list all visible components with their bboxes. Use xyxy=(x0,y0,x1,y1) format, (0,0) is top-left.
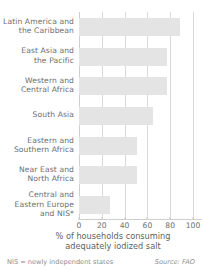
category-label-line-1: Latin America and xyxy=(0,17,74,26)
bar-row xyxy=(79,77,193,95)
tick-label-0: 0 xyxy=(77,221,82,230)
category-label: East Asia andthe Pacific xyxy=(0,46,74,64)
category-axis-line xyxy=(79,219,202,220)
category-label-line-2: Eastern Europe xyxy=(0,200,74,209)
tick-label-100: 100 xyxy=(186,221,201,230)
tick-mark-20 xyxy=(101,217,102,220)
category-label-line-1: East Asia and xyxy=(0,46,74,55)
category-label-line-3: and NIS* xyxy=(0,209,74,218)
category-label-line-1: South Asia xyxy=(0,110,74,119)
category-label: Latin America andthe Caribbean xyxy=(0,17,74,35)
bar-row xyxy=(79,107,193,125)
source-credit: Source: FAO xyxy=(155,258,195,266)
category-label-line-1: Central and xyxy=(0,190,74,199)
bar xyxy=(79,77,167,95)
category-label-line-2: Central Africa xyxy=(0,85,74,94)
bar xyxy=(79,166,137,184)
category-label: South Asia xyxy=(0,110,74,119)
category-label-line-1: Eastern and xyxy=(0,136,74,145)
bar xyxy=(79,18,180,36)
tick-label-60: 60 xyxy=(143,221,153,230)
footnote: NIS = newly independent states xyxy=(7,258,113,266)
tick-label-80: 80 xyxy=(165,221,175,230)
gridline-100 xyxy=(193,12,194,220)
category-label-line-2: Southern Africa xyxy=(0,145,74,154)
category-label-line-2: the Caribbean xyxy=(0,26,74,35)
category-label-line-2: the Pacific xyxy=(0,56,74,65)
tick-mark-40 xyxy=(124,217,125,220)
bar-row xyxy=(79,18,193,36)
category-label: Western andCentral Africa xyxy=(0,76,74,94)
category-label-line-2: North Africa xyxy=(0,174,74,183)
bar xyxy=(79,107,153,125)
iodized-salt-bar-chart: Latin America andthe CaribbeanEast Asia … xyxy=(0,0,202,271)
bar xyxy=(79,48,167,66)
tick-mark-60 xyxy=(147,217,148,220)
bar-row xyxy=(79,166,193,184)
tick-label-20: 20 xyxy=(97,221,107,230)
plot-area xyxy=(79,12,193,220)
axis-title-line-2: adequately iodized salt xyxy=(26,241,200,251)
tick-mark-0 xyxy=(79,217,80,220)
category-label: Central andEastern Europeand NIS* xyxy=(0,190,74,218)
bar-row xyxy=(79,196,193,214)
bar xyxy=(79,196,110,214)
axis-title: % of households consuming adequately iod… xyxy=(26,231,200,251)
bar xyxy=(79,137,137,155)
category-label: Eastern andSouthern Africa xyxy=(0,136,74,154)
category-label: Near East andNorth Africa xyxy=(0,165,74,183)
tick-mark-80 xyxy=(170,217,171,220)
bar-row xyxy=(79,137,193,155)
bar-row xyxy=(79,48,193,66)
tick-mark-100 xyxy=(193,217,194,220)
category-label-line-1: Near East and xyxy=(0,165,74,174)
axis-title-line-1: % of households consuming xyxy=(26,231,200,241)
category-label-line-1: Western and xyxy=(0,76,74,85)
tick-label-40: 40 xyxy=(120,221,130,230)
